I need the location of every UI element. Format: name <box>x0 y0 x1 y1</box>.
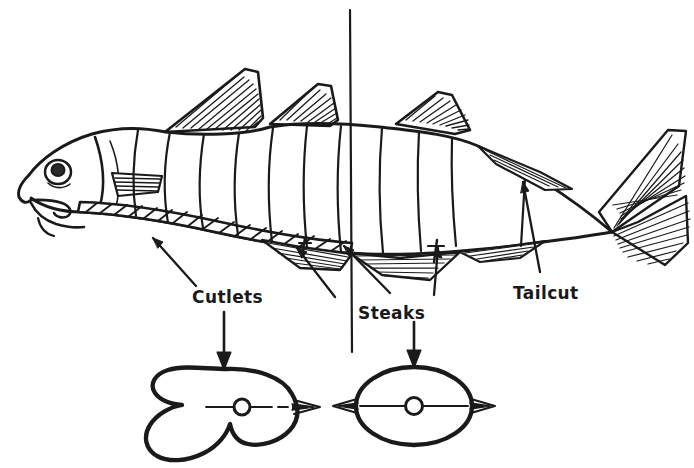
fish-cuts-figure: Cutlets Steaks Tailcut <box>0 0 694 468</box>
label-cutlets: Cutlets <box>192 287 263 307</box>
label-steaks: Steaks <box>358 303 425 323</box>
fish-diagram-svg: Cutlets Steaks Tailcut <box>0 0 694 468</box>
canvas-background <box>0 0 694 468</box>
label-tailcut: Tailcut <box>513 283 579 303</box>
pectoral-fin <box>112 173 162 196</box>
